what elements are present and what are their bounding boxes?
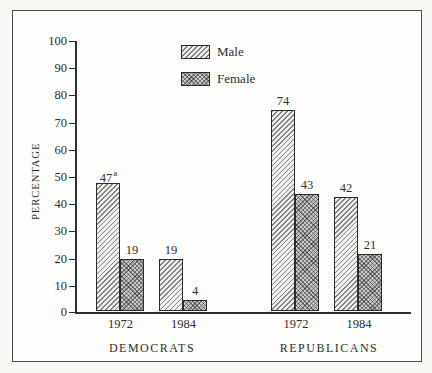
- y-tick-label: 60: [31, 143, 67, 157]
- male-hatch-swatch-icon: [181, 45, 210, 59]
- bar-cluster-democrats-1984: 19 4: [159, 259, 207, 311]
- y-tick: [69, 123, 75, 124]
- y-tick-label: 70: [31, 116, 67, 130]
- y-tick: [69, 286, 75, 287]
- bar-republicans-1972-female: 43: [295, 194, 319, 311]
- bar-republicans-1984-male: 42: [334, 197, 358, 311]
- y-tick-label: 0: [31, 305, 67, 319]
- bar-democrats-1984-male: 19: [159, 259, 183, 311]
- bar-value-label: 74: [277, 94, 290, 108]
- legend: Male Female: [181, 44, 255, 98]
- y-tick-label: 100: [31, 34, 67, 48]
- legend-label-male: Male: [217, 44, 244, 60]
- y-tick-label: 20: [31, 252, 67, 266]
- y-tick: [69, 150, 75, 151]
- y-tick: [69, 177, 75, 178]
- y-tick-label: 80: [31, 88, 67, 102]
- y-tick-label: 10: [31, 279, 67, 293]
- bar-democrats-1972-female: 19: [120, 259, 144, 311]
- bar-cluster-republicans-1984: 42 21: [334, 197, 382, 311]
- bar-value-label: 21: [364, 238, 377, 252]
- bar-democrats-1972-male: 47a: [96, 183, 120, 311]
- legend-item-male: Male: [181, 44, 255, 60]
- x-axis-line: [75, 312, 411, 314]
- bar-value-label: 43: [301, 178, 314, 192]
- y-tick: [69, 259, 75, 260]
- y-tick: [69, 204, 75, 205]
- group-label-democrats: DEMOCRATS: [96, 341, 208, 356]
- x-category-republicans-1972: 1972: [271, 317, 321, 332]
- y-tick: [69, 312, 75, 313]
- x-category-democrats-1984: 1984: [159, 317, 208, 332]
- bar-republicans-1972-male: 74: [271, 110, 295, 311]
- figure-frame: PERCENTAGE 100 90 80 70 60 50 40 30 20 1…: [12, 10, 422, 362]
- bar-value-label: 42: [340, 181, 353, 195]
- bar-value-label: 19: [165, 243, 178, 257]
- x-category-republicans-1984: 1984: [334, 317, 384, 332]
- female-crosshatch-swatch-icon: [181, 72, 210, 86]
- y-tick-label: 50: [31, 170, 67, 184]
- group-label-republicans: REPUBLICANS: [271, 341, 387, 356]
- bar-value-label: 19: [126, 243, 139, 257]
- x-category-democrats-1972: 1972: [96, 317, 145, 332]
- y-tick: [69, 95, 75, 96]
- legend-item-female: Female: [181, 71, 255, 87]
- bar-cluster-democrats-1972: 47a 19: [96, 183, 144, 311]
- bar-democrats-1984-female: 4: [183, 300, 207, 311]
- y-tick-label: 90: [31, 61, 67, 75]
- bar-value-label: 47a: [100, 167, 117, 185]
- y-tick-label: 40: [31, 197, 67, 211]
- legend-label-female: Female: [217, 71, 255, 87]
- bar-value-label: 4: [192, 284, 198, 298]
- bar-republicans-1984-female: 21: [358, 254, 382, 311]
- y-tick: [69, 41, 75, 42]
- y-axis-line: [75, 41, 77, 313]
- bar-cluster-republicans-1972: 74 43: [271, 110, 319, 311]
- y-tick: [69, 68, 75, 69]
- y-tick: [69, 231, 75, 232]
- y-tick-label: 30: [31, 224, 67, 238]
- footnote-marker: a: [113, 168, 117, 178]
